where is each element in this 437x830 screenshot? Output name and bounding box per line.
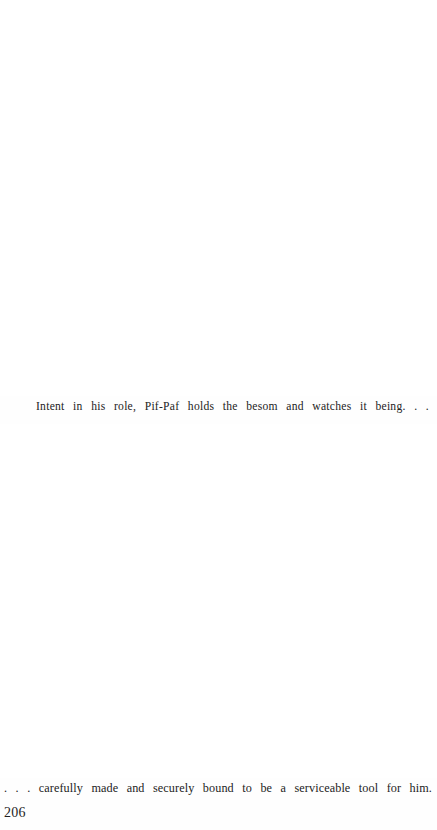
book-page: Intent in his role, Pif-Paf holds the be… [0,0,437,830]
caption-bottom: . . . carefully made and securely bound … [4,781,432,796]
page-number: 206 [4,804,26,822]
plate-image-top [0,0,437,396]
caption-top: Intent in his role, Pif-Paf holds the be… [36,400,429,414]
plate-image-bottom [0,424,437,778]
